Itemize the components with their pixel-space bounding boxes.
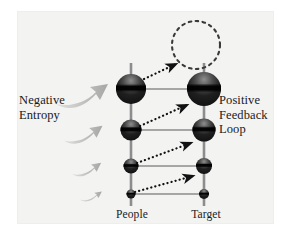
- people-node-2: [121, 120, 142, 141]
- target-node-1: [187, 72, 221, 106]
- feedback-arrow-1: [144, 64, 176, 79]
- feedback-arrow-3: [137, 143, 191, 163]
- target-node-2: [193, 119, 216, 142]
- entropy-arrow-2: [64, 126, 102, 144]
- label-target: Target: [178, 208, 234, 221]
- target-node-3: [196, 158, 212, 174]
- target-node-4: [199, 189, 209, 199]
- feedback-arrow-4: [135, 176, 193, 192]
- label-people: People: [104, 208, 160, 221]
- feedback-arrow-2: [140, 105, 187, 126]
- people-node-3: [124, 159, 139, 174]
- people-node-4: [127, 190, 136, 199]
- people-node-1: [116, 74, 146, 104]
- entropy-arrow-4: [80, 191, 102, 201]
- empty-future-node-dashed-circle: [172, 21, 220, 69]
- label-positive-feedback-loop: Positive Feedback Loop: [219, 93, 268, 137]
- diagram-root: Negative Entropy Positive Feedback Loop …: [0, 0, 291, 246]
- label-negative-entropy: Negative Entropy: [19, 93, 65, 122]
- connector-rungs: [131, 89, 204, 194]
- entropy-arrow-3: [72, 163, 101, 176]
